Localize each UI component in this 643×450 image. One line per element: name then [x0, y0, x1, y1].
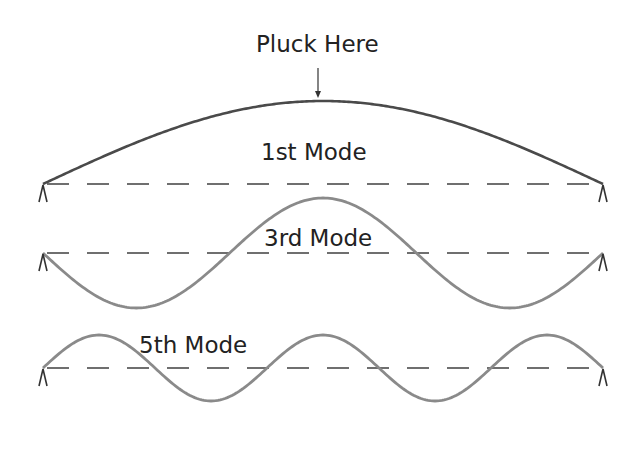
mode-3-group	[39, 198, 607, 308]
diagram-canvas: Pluck Here 1st Mode 3rd Mode 5th Mode	[0, 0, 643, 450]
mode-1-label: 1st Mode	[261, 141, 367, 164]
pluck-here-label: Pluck Here	[256, 33, 379, 56]
mode-5-label: 5th Mode	[139, 334, 247, 357]
mode-3-label: 3rd Mode	[264, 227, 372, 250]
mode-5-group	[39, 335, 607, 401]
pluck-arrow-icon	[315, 68, 321, 98]
mode-1-left-support-icon	[39, 185, 47, 202]
mode-5-right-support-icon	[599, 369, 607, 386]
mode-1-right-support-icon	[599, 185, 607, 202]
mode-5-left-support-icon	[39, 369, 47, 386]
